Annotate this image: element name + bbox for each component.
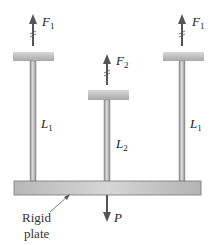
- plate-label-line2: plate: [24, 226, 49, 241]
- right-bar-length-label: L1: [189, 116, 202, 133]
- diagram-canvas: F1 L1 F2 L2 F1 L1 P Rigid plate: [0, 0, 218, 245]
- plate-leader-line: [50, 194, 70, 212]
- center-bar-length-label: L2: [115, 136, 128, 153]
- center-force-label: F2: [115, 53, 128, 70]
- center-bar: [104, 100, 110, 181]
- left-cap: [13, 52, 54, 61]
- rigid-plate: [14, 181, 201, 195]
- plate-label-line1: Rigid: [22, 210, 51, 225]
- left-force-arrow: [29, 14, 37, 46]
- load-label: P: [113, 210, 122, 225]
- right-force-label: F1: [191, 14, 204, 31]
- right-bar: [179, 61, 185, 181]
- left-bar: [30, 61, 36, 181]
- center-cap: [88, 90, 129, 100]
- right-cap: [163, 52, 204, 61]
- left-bar-length-label: L1: [40, 116, 53, 133]
- left-force-label: F1: [41, 14, 54, 31]
- center-force-arrow: [103, 54, 111, 85]
- right-force-arrow: [178, 14, 186, 46]
- load-arrow: [103, 195, 111, 222]
